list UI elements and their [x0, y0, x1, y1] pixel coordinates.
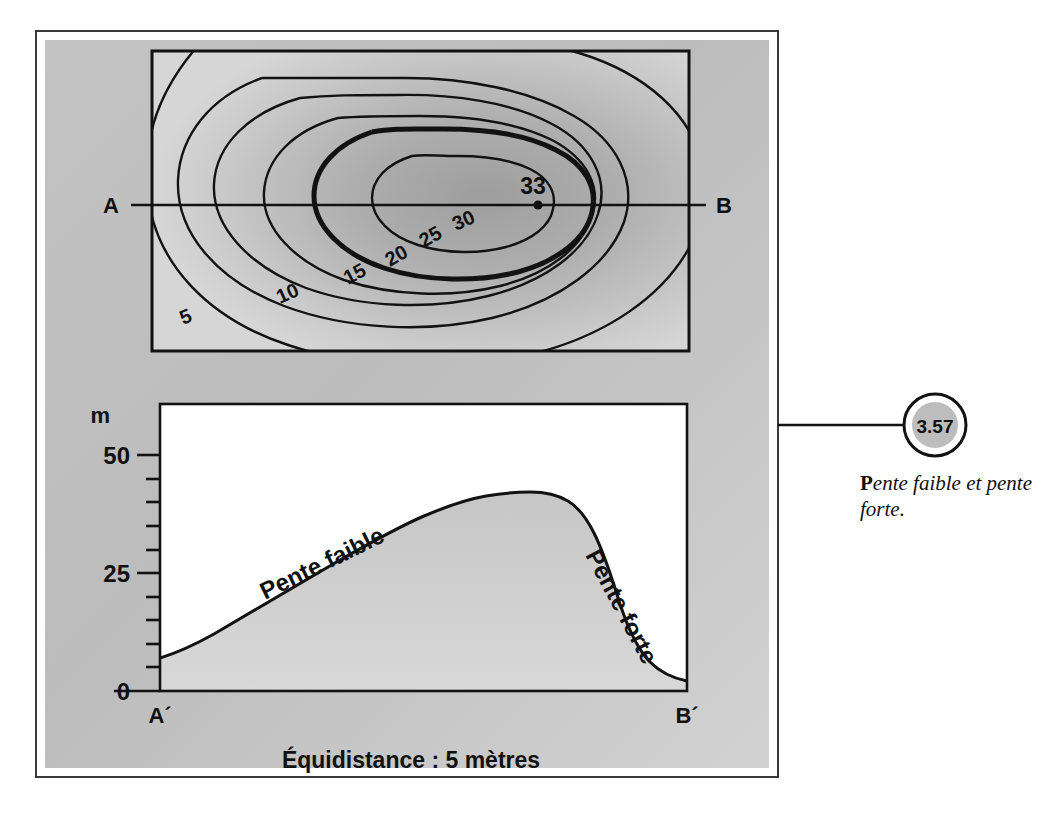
figure-root: 33 5 10 15 20 25 30 A B: [0, 0, 1043, 833]
side-caption-rest-1: ente faible et pente: [873, 471, 1032, 495]
profile-chart: m 50 25 0 A´ B´ Pente faible Pente forte: [90, 403, 698, 728]
marker-number: 3.57: [917, 416, 954, 437]
contour-map: 33 5 10 15 20 25 30 A B: [103, 40, 732, 366]
side-caption-line1: Pente faible et pente: [860, 471, 1032, 495]
profile-label-a-prime: A´: [148, 703, 171, 728]
section-label-a: A: [103, 193, 119, 218]
profile-ytick-0: 0: [117, 678, 130, 705]
side-caption-lead: P: [860, 471, 873, 495]
profile-ytick-25: 25: [103, 560, 130, 587]
equidistance-caption: Équidistance : 5 mètres: [282, 746, 540, 773]
summit-elevation-label: 33: [520, 173, 546, 199]
section-label-b: B: [716, 193, 732, 218]
profile-label-b-prime: B´: [675, 703, 698, 728]
profile-y-axis-unit: m: [90, 403, 110, 428]
side-caption-line2: forte.: [860, 497, 905, 521]
profile-ytick-50: 50: [103, 442, 130, 469]
